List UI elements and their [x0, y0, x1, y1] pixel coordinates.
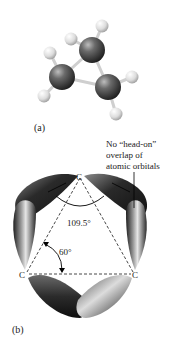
- figure-canvas: (a) C C C 109.5°: [0, 0, 187, 350]
- panel-b-label: (b): [12, 324, 24, 336]
- carbon-label-left: C: [19, 270, 25, 280]
- hydrogen-atom: [96, 20, 109, 33]
- ball-and-stick-model: [38, 20, 139, 121]
- hydrogen-atom: [38, 90, 51, 103]
- angle-arc-109: [56, 196, 104, 206]
- annotation-line-2: overlap of: [106, 150, 143, 160]
- carbon-label-right: C: [132, 270, 138, 280]
- orbital-lobe: [126, 200, 147, 270]
- carbon-atom: [95, 74, 121, 100]
- panel-a-label: (a): [34, 122, 45, 134]
- hydrogen-atom: [65, 33, 78, 46]
- carbon-atom: [49, 64, 75, 90]
- orbital-diagram: [13, 172, 147, 318]
- hydrogen-atom: [110, 108, 123, 121]
- arrowhead: [59, 268, 65, 273]
- arrowhead: [43, 242, 49, 247]
- annotation-line-1: No “head-on”: [106, 139, 156, 149]
- carbon-label-top: C: [76, 172, 82, 182]
- angle-label-60: 60°: [59, 247, 72, 257]
- orbital-lobe: [76, 275, 132, 318]
- orbital-lobe: [13, 200, 36, 270]
- angle-label-109: 109.5°: [67, 218, 91, 228]
- carbon-atom: [79, 37, 105, 63]
- hydrogen-atom: [44, 47, 57, 60]
- annotation-line-3: atomic orbitals: [106, 161, 160, 171]
- hydrogen-atom: [126, 71, 139, 84]
